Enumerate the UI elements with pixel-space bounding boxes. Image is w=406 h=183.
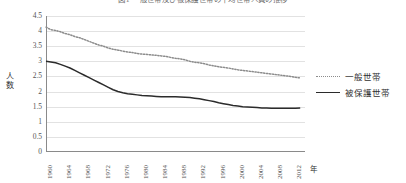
y-axis-title-char: 数: [4, 81, 16, 90]
y-tick-label: 0.5: [20, 133, 42, 141]
x-tick-label: 2012: [295, 170, 304, 179]
x-tick-label: 1960: [46, 170, 55, 179]
chart-legend: 一般世帯 被保護世帯: [316, 70, 404, 102]
data-series-group: [46, 16, 305, 152]
legend-item-ippan: 一般世帯: [316, 70, 404, 84]
x-tick-label: 2004: [257, 170, 266, 179]
x-tick-label: 2000: [238, 170, 247, 179]
legend-item-hihogo: 被保護世帯: [316, 86, 404, 100]
plot-area: [46, 16, 305, 152]
y-tick-label: 2.5: [20, 72, 42, 80]
y-tick-label: 1.5: [20, 103, 42, 111]
y-tick-label: 0: [20, 148, 42, 156]
legend-label: 一般世帯: [345, 72, 381, 82]
chart-figure: 図1 一般世帯及び被保護世帯の平均世帯人員の推移 人数 4.543.532.52…: [0, 0, 406, 183]
x-tick-label: 1976: [123, 170, 132, 179]
y-axis-title: 人数: [4, 72, 16, 90]
y-axis-tick-labels: 4.543.532.521.510.50: [18, 0, 42, 183]
x-tick-label: 2008: [276, 170, 285, 179]
x-axis-unit-label: 年: [310, 163, 317, 174]
x-tick-label: 1996: [219, 170, 228, 179]
series-line: [46, 27, 300, 78]
y-tick-label: 1: [20, 118, 42, 126]
y-tick-label: 4.5: [20, 12, 42, 20]
x-tick-label: 1972: [104, 170, 113, 179]
y-axis-title-char: 人: [4, 72, 16, 81]
x-axis-tick-labels: 1960196419681972197619801984198819921996…: [46, 153, 346, 183]
x-tick-label: 1988: [180, 170, 189, 179]
dotted-line-swatch-icon: [316, 73, 340, 81]
y-tick-label: 4: [20, 27, 42, 35]
x-tick-label: 1992: [199, 170, 208, 179]
y-tick-label: 3: [20, 57, 42, 65]
chart-title: 図1 一般世帯及び被保護世帯の平均世帯人員の推移: [0, 0, 406, 4]
solid-line-swatch-icon: [316, 89, 340, 97]
x-tick-label: 1968: [84, 170, 93, 179]
y-tick-label: 2: [20, 88, 42, 96]
y-tick-label: 3.5: [20, 42, 42, 50]
legend-label: 被保護世帯: [345, 88, 390, 98]
x-tick-label: 1980: [142, 170, 151, 179]
series-line: [46, 61, 300, 108]
x-tick-label: 1964: [65, 170, 74, 179]
x-tick-label: 1984: [161, 170, 170, 179]
